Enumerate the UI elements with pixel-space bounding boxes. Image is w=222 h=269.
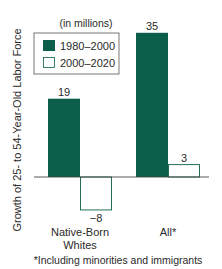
- category-label-native-born-whites-line1: Native-Born: [51, 226, 109, 238]
- bar-native-born-whites-2000-2020: [81, 177, 112, 210]
- bar-native-born-whites-1980-2000: [48, 99, 80, 177]
- category-labels: Native-Born Whites All*: [51, 226, 177, 251]
- data-label-native-born-whites-2000-2020: −8: [90, 212, 103, 224]
- legend: 1980–2000 2000–2020: [34, 33, 119, 74]
- bar-all-1980-2000: [136, 33, 168, 177]
- data-label-all-2000-2020: 3: [181, 152, 187, 164]
- y-axis-label: Growth of 25- to 54-Year-Old Labor Force: [11, 28, 23, 231]
- legend-swatch-2000-2020: [44, 58, 55, 68]
- legend-swatch-1980-2000: [43, 40, 55, 51]
- legend-label-1980-2000: 1980–2000: [60, 40, 115, 52]
- data-label-all-1980-2000: 35: [146, 20, 158, 32]
- legend-label-2000-2020: 2000–2020: [60, 57, 115, 69]
- category-label-all: All*: [160, 226, 177, 238]
- footnote: *Including minorities and immigrants: [34, 254, 203, 266]
- category-label-native-born-whites-line2: Whites: [63, 239, 97, 251]
- unit-note: (in millions): [59, 17, 112, 29]
- chart: Growth of 25- to 54-Year-Old Labor Force…: [0, 0, 222, 269]
- data-label-native-born-whites-1980-2000: 19: [58, 86, 70, 98]
- bar-all-2000-2020: [169, 165, 200, 177]
